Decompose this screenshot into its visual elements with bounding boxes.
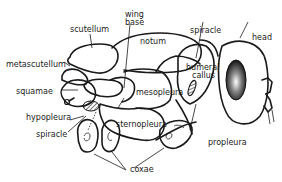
- label-hypopleura: hypopleura: [26, 113, 71, 122]
- wing-base-shape: [84, 79, 122, 97]
- label-humeral-callus-2: callus: [192, 71, 215, 80]
- label-mesopleura: mesopleura: [136, 88, 183, 97]
- fly-thorax-diagram: scutellum wing base notum spiracle head …: [0, 0, 282, 182]
- label-head: head: [252, 33, 272, 42]
- compound-eye: [226, 60, 246, 100]
- hypopleura-spiracle: [83, 101, 99, 111]
- label-notum: notum: [140, 37, 166, 46]
- humeral-spiracle: [186, 79, 197, 96]
- label-scutellum: scutellum: [70, 25, 109, 34]
- label-spiracle-top: spiracle: [190, 26, 221, 35]
- diagram-drawing: scutellum wing base notum spiracle head …: [0, 0, 282, 182]
- label-sternopleura: sternopleura: [116, 120, 167, 129]
- label-spiracle-bottom: spiracle: [36, 130, 67, 139]
- coxa-hind: [78, 120, 98, 152]
- label-coxae: coxae: [130, 165, 154, 174]
- label-propleura: propleura: [208, 138, 247, 147]
- label-metascutellum: metascutellum: [6, 60, 66, 69]
- label-squamae: squamae: [16, 87, 53, 96]
- label-wing-base-2: base: [125, 18, 144, 27]
